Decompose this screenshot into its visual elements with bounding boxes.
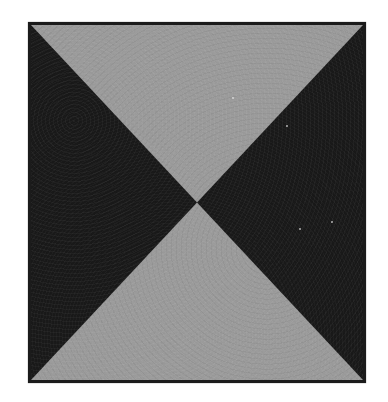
scan-speckle — [232, 97, 234, 99]
dark-wedge-left — [31, 25, 197, 380]
dark-wedge-right — [197, 25, 363, 380]
image-canvas — [0, 0, 388, 402]
bowtie-pattern-plate — [28, 22, 366, 383]
pattern-field — [31, 25, 363, 380]
